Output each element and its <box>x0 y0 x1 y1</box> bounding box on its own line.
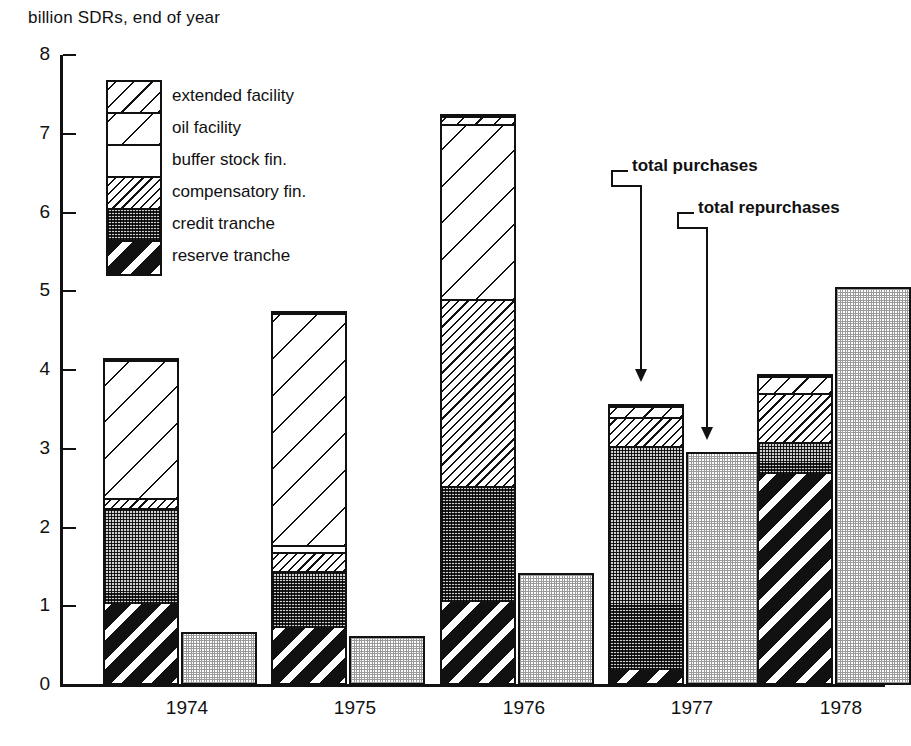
y-tick-6 <box>63 212 76 214</box>
1976-segment-credit-tranche <box>442 486 514 602</box>
1976-segment-oil-facility <box>442 124 514 299</box>
1977-repurchases-bar[interactable] <box>686 452 762 685</box>
legend-swatch-buffer-stock-fin <box>108 146 160 178</box>
1978-purchases-bar[interactable] <box>757 374 833 685</box>
legend-label-credit-tranche: credit tranche <box>172 214 275 234</box>
legend-label-oil-facility: oil facility <box>172 118 241 138</box>
1975-segment-compensatory-fin <box>273 552 345 572</box>
1978-segment-reserve-tranche <box>759 474 831 685</box>
1978-repurchases-bar[interactable] <box>835 287 911 685</box>
y-tick-2 <box>63 527 76 529</box>
y-tick-1 <box>63 605 76 607</box>
1978-segment-compensatory-fin <box>759 393 831 442</box>
annotation-label-total-purchases: total purchases <box>632 156 758 176</box>
1975-segment-credit-tranche <box>273 571 345 628</box>
1977-segment-reserve-tranche <box>610 670 682 685</box>
y-tick-label-4: 4 <box>20 359 50 378</box>
1977-segment-credit-tranche <box>610 446 682 670</box>
y-tick-8 <box>63 54 76 56</box>
legend-swatch-extended-facility <box>108 82 160 114</box>
y-tick-label-5: 5 <box>20 280 50 299</box>
1974-repurchases-bar[interactable] <box>181 632 257 685</box>
y-tick-label-8: 8 <box>20 44 50 63</box>
1975-segment-buffer-stock-fin <box>273 545 345 551</box>
1975-segment-oil-facility <box>273 313 345 545</box>
y-tick-label-0: 0 <box>20 674 50 693</box>
x-axis-label-1977: 1977 <box>647 697 737 719</box>
legend-label-reserve-tranche: reserve tranche <box>172 246 290 266</box>
y-tick-3 <box>63 448 76 450</box>
y-tick-4 <box>63 369 76 371</box>
1974-segment-oil-facility <box>105 360 177 498</box>
chart-legend <box>106 80 162 276</box>
y-tick-label-7: 7 <box>20 123 50 142</box>
annotation-leader-h-total-purchases <box>611 170 628 172</box>
annotation-label-total-repurchases: total repurchases <box>698 198 840 218</box>
x-axis-label-1975: 1975 <box>310 697 400 719</box>
y-tick-5 <box>63 290 76 292</box>
1975-purchases-bar[interactable] <box>271 311 347 685</box>
y-tick-7 <box>63 133 76 135</box>
legend-swatch-credit-tranche <box>108 210 160 242</box>
annotation-leader-v-total-repurchases <box>677 212 679 227</box>
1974-segment-compensatory-fin <box>105 498 177 508</box>
1976-segment-reserve-tranche <box>442 602 514 685</box>
y-tick-label-2: 2 <box>20 517 50 536</box>
1976-purchases-bar[interactable] <box>440 114 516 685</box>
1974-segment-reserve-tranche <box>105 604 177 685</box>
1976-segment-extended-facility <box>442 116 514 124</box>
annotation-arrow-shaft-total-purchases <box>640 185 642 370</box>
annotation-arrow-shaft-total-repurchases <box>706 227 708 428</box>
annotation-leader-h-total-repurchases <box>677 212 694 214</box>
1976-segment-compensatory-fin <box>442 299 514 486</box>
y-axis-line <box>60 55 63 687</box>
1978-segment-extended-facility <box>759 376 831 393</box>
legend-label-compensatory-fin: compensatory fin. <box>172 182 306 202</box>
legend-label-extended-facility: extended facility <box>172 86 294 106</box>
x-axis-label-1978: 1978 <box>796 697 886 719</box>
annotation-arrow-head-total-purchases <box>635 369 647 382</box>
y-tick-label-1: 1 <box>20 595 50 614</box>
legend-swatch-compensatory-fin <box>108 178 160 210</box>
annotation-leader-v-total-purchases <box>611 170 613 185</box>
1977-purchases-bar[interactable] <box>608 404 684 685</box>
1977-segment-extended-facility <box>610 406 682 417</box>
x-axis-label-1976: 1976 <box>479 697 569 719</box>
annotation-arrow-head-total-repurchases <box>701 427 713 440</box>
1977-segment-compensatory-fin <box>610 417 682 446</box>
legend-swatch-reserve-tranche <box>108 242 160 274</box>
y-tick-0 <box>63 684 76 686</box>
1974-purchases-bar[interactable] <box>103 358 179 685</box>
y-tick-label-6: 6 <box>20 202 50 221</box>
y-tick-label-3: 3 <box>20 438 50 457</box>
legend-label-buffer-stock-fin: buffer stock fin. <box>172 150 287 170</box>
1974-segment-credit-tranche <box>105 508 177 604</box>
x-axis-label-1974: 1974 <box>142 697 232 719</box>
1975-repurchases-bar[interactable] <box>349 636 425 685</box>
1978-segment-credit-tranche <box>759 442 831 474</box>
annotation-jog-total-purchases <box>611 185 640 187</box>
1975-segment-reserve-tranche <box>273 628 345 685</box>
1976-repurchases-bar[interactable] <box>518 573 594 685</box>
legend-swatch-oil-facility <box>108 114 160 146</box>
annotation-jog-total-repurchases <box>677 227 706 229</box>
